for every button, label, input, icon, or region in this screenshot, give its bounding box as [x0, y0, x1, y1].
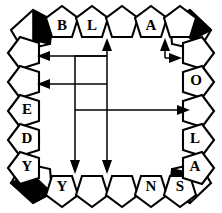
ring-top: B L A	[46, 6, 196, 37]
bottom-cell-5-label: S	[176, 178, 184, 194]
left-cell-2[interactable]	[8, 66, 39, 98]
right-cell-4-label: L	[190, 130, 200, 146]
right-cell-3[interactable]	[183, 95, 214, 127]
flow-right-to-right-cell-1-head	[169, 53, 182, 63]
bottom-cell-2[interactable]	[76, 176, 108, 207]
ring-left: E D Y	[8, 37, 39, 184]
right-cell-2-label: O	[190, 72, 202, 88]
bottom-cell-3-shape	[106, 176, 138, 207]
top-cell-1-label: B	[57, 17, 67, 33]
bottom-cell-4[interactable]: N	[135, 176, 167, 207]
left-cell-1[interactable]	[8, 37, 39, 69]
flow-down-right-head	[102, 160, 112, 174]
right-cell-4[interactable]: L	[183, 124, 214, 156]
right-cell-1[interactable]	[183, 37, 214, 69]
corner-cells	[11, 10, 211, 203]
right-cell-5-label: A	[190, 158, 201, 174]
flow-up-to-top-cell-5-head	[160, 38, 170, 51]
figure-canvas: B L A Y	[0, 0, 222, 213]
bottom-cell-2-shape	[76, 176, 108, 207]
left-cell-4[interactable]: D	[8, 124, 39, 156]
right-cell-1-shape	[183, 37, 214, 69]
bottom-cell-4-label: N	[146, 178, 157, 194]
top-cell-3-shape	[106, 6, 138, 37]
pentagon-ring-figure: B L A Y	[0, 0, 222, 213]
flow-arrows	[37, 38, 190, 174]
left-cell-3-label: E	[22, 101, 32, 117]
top-cell-4-label: A	[146, 17, 157, 33]
top-cell-2-label: L	[87, 17, 97, 33]
left-cell-3[interactable]: E	[8, 95, 39, 127]
bottom-cell-1[interactable]: Y	[46, 176, 78, 207]
right-cell-2[interactable]: O	[183, 66, 214, 98]
flow-up-to-top-middle-head	[102, 38, 112, 51]
flow-elbow-left-upper	[75, 56, 107, 84]
left-cell-4-label: D	[22, 130, 33, 146]
left-cell-2-shape	[8, 66, 39, 98]
top-cell-2[interactable]: L	[76, 6, 108, 37]
bottom-cell-3[interactable]	[106, 176, 138, 207]
right-cell-3-shape	[183, 95, 214, 127]
left-cell-5-label: Y	[22, 158, 33, 174]
top-cell-4[interactable]: A	[135, 6, 167, 37]
bottom-cell-1-label: Y	[57, 178, 68, 194]
ring-bottom: Y N S	[46, 176, 196, 207]
top-cell-3[interactable]	[106, 6, 138, 37]
top-cell-1[interactable]: B	[46, 6, 78, 37]
flow-down-left-head	[70, 160, 80, 174]
left-cell-1-shape	[8, 37, 39, 69]
